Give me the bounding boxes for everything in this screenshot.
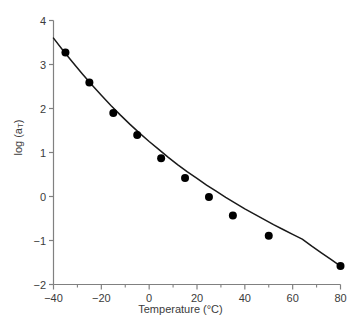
y-axis-tick-label: 1 [40, 147, 46, 159]
data-points [61, 49, 344, 270]
y-axis-tick-label: −1 [33, 235, 46, 247]
y-axis-label-tail: ) [12, 119, 24, 123]
y-axis-tick-label: 3 [40, 59, 46, 71]
figure: −2−101234 −40−20020406080 log (aT) Tempe… [0, 0, 361, 325]
y-axis-tick-label: −2 [33, 279, 46, 291]
y-axis-label-subscript: T [16, 123, 25, 128]
fit-curve [54, 38, 341, 266]
y-axis-tick-label: 0 [40, 191, 46, 203]
data-point-marker [181, 174, 189, 182]
y-axis-tick-label: 4 [40, 15, 46, 27]
data-point-marker [205, 193, 213, 201]
y-axis-tick-label: 2 [40, 103, 46, 115]
x-axis-tick-label: 40 [239, 292, 251, 304]
data-point-marker [133, 131, 141, 139]
chart-canvas: −2−101234 −40−20020406080 [0, 0, 361, 325]
data-point-marker [61, 49, 69, 57]
x-axis-tick-label: −40 [44, 292, 63, 304]
y-axis-label-main: log (a [12, 128, 24, 156]
x-axis-tick-label: 0 [146, 292, 152, 304]
y-axis-label-wrap: log (aT) [4, 0, 28, 325]
x-axis: −40−20020406080 [44, 285, 346, 304]
x-axis-tick-label: 60 [287, 292, 299, 304]
y-axis-label: log (aT) [12, 90, 25, 186]
fit-curve-path [54, 38, 341, 266]
x-axis-tick-label: 20 [191, 292, 203, 304]
x-axis-label: Temperature (°C) [0, 303, 361, 315]
data-point-marker [109, 109, 117, 117]
x-axis-tick-label: −20 [92, 292, 111, 304]
data-point-marker [229, 211, 237, 219]
data-point-marker [337, 262, 345, 270]
data-point-marker [265, 232, 273, 240]
x-axis-tick-label: 80 [334, 292, 346, 304]
data-point-marker [157, 154, 165, 162]
y-axis: −2−101234 [33, 15, 53, 291]
data-point-marker [85, 79, 93, 87]
